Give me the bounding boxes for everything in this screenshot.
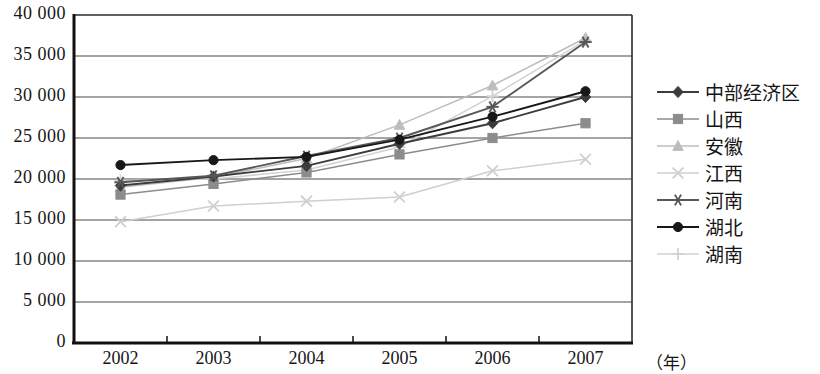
- y-axis-tick-label: 0: [57, 331, 67, 352]
- x-axis-unit-label: （年）: [646, 349, 697, 374]
- y-axis-tick-label: 5 000: [23, 290, 66, 311]
- x-axis-tick-label: 2006: [448, 348, 538, 369]
- legend-label: 江西: [701, 159, 743, 186]
- x-axis-tick-label: 2003: [169, 348, 259, 369]
- legend-label: 湖北: [701, 213, 743, 240]
- data-point-circle: [488, 112, 497, 121]
- data-point-plus: [672, 248, 684, 260]
- data-point-square: [581, 119, 590, 128]
- data-point-square: [488, 133, 497, 142]
- chart-legend: 中部经济区山西安徽江西河南湖北湖南: [655, 78, 820, 267]
- x-axis-tick-label: 2004: [262, 348, 352, 369]
- data-point-circle: [673, 222, 682, 231]
- data-point-diamond: [673, 86, 683, 97]
- x-axis-tick-label: 2002: [76, 348, 166, 369]
- legend-marker-plus-icon: [655, 244, 701, 264]
- legend-item-山西[interactable]: 山西: [655, 105, 820, 132]
- y-axis-tick-label: 30 000: [14, 85, 67, 106]
- data-point-asterisk: [672, 194, 684, 205]
- data-point-square: [673, 114, 682, 123]
- legend-item-安徽[interactable]: 安徽: [655, 132, 820, 159]
- legend-marker-triangle-icon: [655, 136, 701, 156]
- y-axis-tick-label: 25 000: [14, 126, 67, 147]
- data-point-circle: [302, 152, 311, 161]
- x-axis-tick-label: 2007: [541, 348, 631, 369]
- data-point-circle: [116, 160, 125, 169]
- data-point-circle: [581, 87, 590, 96]
- y-axis-tick-label: 15 000: [14, 208, 67, 229]
- y-axis-tick-label: 20 000: [14, 167, 67, 188]
- legend-marker-x-icon: [655, 163, 701, 183]
- legend-item-中部经济区[interactable]: 中部经济区: [655, 78, 820, 105]
- legend-label: 山西: [701, 105, 743, 132]
- y-axis-tick-label: 10 000: [14, 249, 67, 270]
- legend-label: 河南: [701, 186, 743, 213]
- legend-item-河南[interactable]: 河南: [655, 186, 820, 213]
- legend-marker-circle-icon: [655, 217, 701, 237]
- y-axis-tick-label: 40 000: [14, 3, 67, 24]
- x-axis-tick-label: 2005: [355, 348, 445, 369]
- legend-item-江西[interactable]: 江西: [655, 159, 820, 186]
- data-point-square: [395, 150, 404, 159]
- legend-item-湖北[interactable]: 湖北: [655, 213, 820, 240]
- legend-marker-square-icon: [655, 109, 701, 129]
- legend-label: 湖南: [701, 240, 743, 267]
- legend-item-湖南[interactable]: 湖南: [655, 240, 820, 267]
- data-point-circle: [395, 135, 404, 144]
- legend-label: 中部经济区: [701, 78, 800, 105]
- y-axis-tick-label: 35 000: [14, 44, 67, 65]
- legend-marker-asterisk-icon: [655, 190, 701, 210]
- data-point-circle: [209, 156, 218, 165]
- legend-label: 安徽: [701, 132, 743, 159]
- legend-marker-diamond-icon: [655, 82, 701, 102]
